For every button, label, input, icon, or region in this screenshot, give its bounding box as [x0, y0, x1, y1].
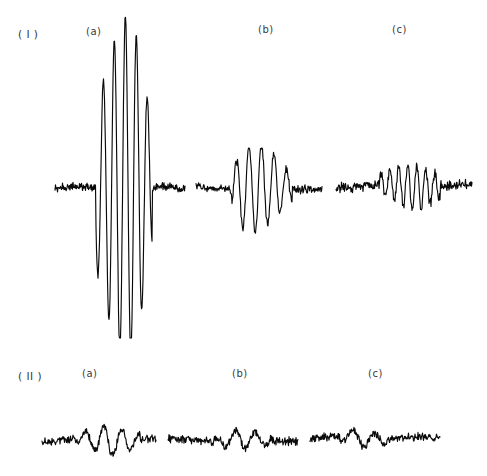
waveform-trace-i-b [196, 148, 322, 233]
panel-label-i-c: (c) [392, 24, 407, 35]
panel-label-i-a: (a) [86, 26, 101, 37]
waveform-trace-ii-b [168, 427, 298, 451]
row-label-i: ( I ) [18, 28, 38, 40]
row-label-ii: ( II ) [18, 370, 42, 382]
panel-label-ii-b: (b) [232, 368, 248, 379]
waveform-trace-ii-c [310, 427, 440, 449]
panel-label-ii-a: (a) [82, 368, 97, 379]
waveform-figure: ( I ) (a) (b) (c) ( II ) (a) (b) (c) [0, 0, 487, 476]
waveform-trace-layer [0, 0, 487, 476]
panel-label-i-b: (b) [258, 24, 274, 35]
waveform-trace-ii-a [42, 424, 156, 456]
waveform-trace-i-a [55, 17, 185, 338]
panel-label-ii-c: (c) [368, 368, 383, 379]
waveform-trace-i-c [336, 163, 472, 210]
